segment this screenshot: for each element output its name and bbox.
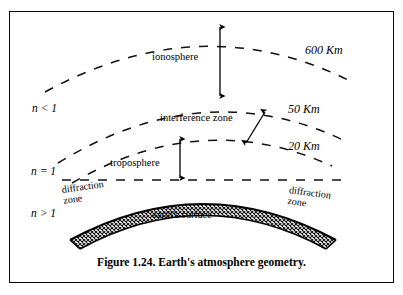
label-altitude-600km: 600 Km xyxy=(305,44,343,56)
label-refractive-index-greater: n > 1 xyxy=(31,208,56,220)
label-interference-zone: interference zone xyxy=(160,113,233,124)
label-earth-surface: earth's surface xyxy=(152,210,212,221)
label-refractive-index-less: n < 1 xyxy=(32,103,57,115)
interference-thickness-arrow xyxy=(246,112,265,143)
label-refractive-index-equal: n = 1 xyxy=(31,166,56,178)
figure-caption: Figure 1.24. Earth's atmosphere geometry… xyxy=(9,256,394,268)
label-ionosphere: ionosphere xyxy=(152,52,198,63)
figure-container: ionosphere interference zone troposphere… xyxy=(0,0,403,295)
label-altitude-50km: 50 Km xyxy=(288,103,320,115)
label-troposphere: troposphere xyxy=(110,158,160,169)
label-altitude-20km: 20 Km xyxy=(288,140,320,152)
